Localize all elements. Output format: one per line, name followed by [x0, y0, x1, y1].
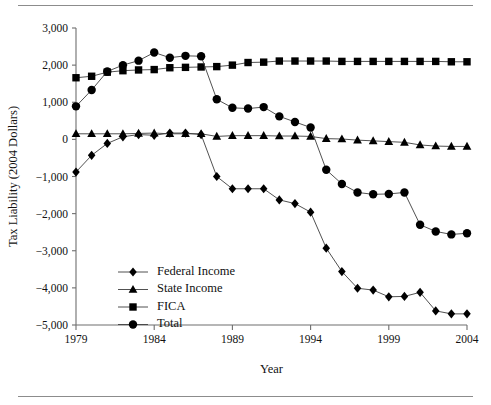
data-point-triangle — [338, 134, 347, 142]
data-point-circle — [259, 103, 267, 111]
data-point-square — [88, 73, 95, 80]
data-point-triangle — [87, 129, 96, 137]
y-tick-label: 0 — [62, 133, 68, 145]
data-point-circle — [291, 118, 299, 126]
data-point-circle — [134, 56, 142, 64]
data-point-diamond — [291, 199, 299, 208]
data-point-circle — [353, 188, 361, 196]
data-point-circle — [432, 227, 440, 235]
x-tick-label: 1979 — [65, 333, 88, 345]
legend-item-label: Federal Income — [157, 264, 236, 278]
data-point-diamond — [369, 286, 377, 295]
data-point-circle — [244, 104, 252, 112]
x-tick-label: 2004 — [456, 333, 479, 345]
data-point-square — [307, 57, 314, 64]
data-point-triangle — [384, 137, 393, 145]
data-point-circle — [275, 112, 283, 120]
data-point-triangle — [129, 285, 138, 293]
x-tick-label: 1984 — [143, 333, 166, 345]
data-point-circle — [447, 230, 455, 238]
data-point-triangle — [150, 128, 159, 136]
data-point-square — [291, 57, 298, 64]
data-point-circle — [197, 52, 205, 60]
data-point-square — [129, 303, 136, 310]
data-point-circle — [119, 61, 127, 69]
legend-item-federal-income[interactable]: Federal Income — [118, 264, 236, 278]
data-point-circle — [103, 67, 111, 75]
legend-item-fica[interactable]: FICA — [118, 299, 185, 313]
data-point-triangle — [447, 142, 456, 150]
data-point-triangle — [197, 129, 206, 137]
data-point-square — [338, 58, 345, 65]
data-point-circle — [306, 123, 314, 131]
data-point-square — [213, 63, 220, 70]
data-point-triangle — [369, 136, 378, 144]
tax-liability-line-chart: −5,000−4,000−3,000−2,000−1,00001,0002,00… — [0, 0, 491, 405]
data-point-circle — [87, 86, 95, 94]
data-point-triangle — [400, 138, 409, 146]
data-point-diamond — [260, 184, 268, 193]
data-point-square — [323, 57, 330, 64]
data-point-triangle — [275, 131, 284, 139]
x-tick-label: 1999 — [377, 333, 400, 345]
legend-item-label: Total — [157, 316, 183, 330]
data-point-square — [244, 59, 251, 66]
data-point-circle — [166, 54, 174, 62]
data-point-square — [166, 64, 173, 71]
data-point-triangle — [259, 131, 268, 139]
y-tick-label: −2,000 — [36, 208, 69, 221]
data-point-diamond — [213, 172, 221, 181]
x-tick-label: 1994 — [299, 333, 322, 345]
data-point-circle — [129, 320, 137, 328]
data-point-diamond — [229, 184, 237, 193]
data-point-circle — [213, 95, 221, 103]
y-axis-title: Tax Liability (2004 Dollars) — [6, 106, 20, 247]
data-point-square — [416, 58, 423, 65]
data-point-square — [448, 58, 455, 65]
y-tick-label: 1,000 — [42, 96, 68, 109]
legend-item-label: State Income — [157, 281, 223, 295]
data-point-diamond — [307, 208, 315, 217]
data-point-circle — [385, 190, 393, 198]
series-state-income — [72, 128, 472, 149]
data-point-square — [354, 58, 361, 65]
legend-item-total[interactable]: Total — [118, 316, 183, 330]
data-point-diamond — [104, 139, 112, 148]
data-point-triangle — [291, 131, 300, 139]
data-point-triangle — [463, 142, 472, 150]
figure-root: −5,000−4,000−3,000−2,000−1,00001,0002,00… — [0, 0, 491, 405]
chart-legend: Federal IncomeState IncomeFICATotal — [118, 264, 236, 331]
data-point-square — [135, 66, 142, 73]
data-point-triangle — [119, 129, 128, 137]
data-point-circle — [338, 180, 346, 188]
legend-item-state-income[interactable]: State Income — [118, 281, 223, 295]
data-point-circle — [400, 188, 408, 196]
data-point-diamond — [385, 292, 393, 301]
y-tick-label: −5,000 — [36, 319, 69, 332]
y-tick-label: −4,000 — [36, 282, 69, 295]
y-tick-label: 2,000 — [42, 59, 68, 72]
data-point-square — [432, 58, 439, 65]
data-point-square — [151, 66, 158, 73]
data-point-diamond — [276, 195, 284, 204]
x-axis-title: Year — [260, 362, 284, 376]
data-point-triangle — [72, 129, 81, 137]
series-line — [76, 53, 467, 235]
data-point-square — [385, 58, 392, 65]
data-point-circle — [72, 102, 80, 110]
data-point-square — [260, 58, 267, 65]
data-point-circle — [181, 52, 189, 60]
data-point-diamond — [129, 267, 137, 276]
data-point-triangle — [103, 129, 112, 137]
data-point-triangle — [134, 129, 143, 137]
data-point-diamond — [448, 309, 456, 318]
legend-item-label: FICA — [157, 299, 185, 313]
y-tick-label: 3,000 — [42, 22, 68, 35]
data-point-square — [401, 58, 408, 65]
data-point-circle — [150, 48, 158, 56]
data-point-square — [229, 61, 236, 68]
series-line — [76, 133, 467, 314]
data-point-square — [72, 74, 79, 81]
data-point-circle — [416, 221, 424, 229]
data-point-diamond — [401, 292, 409, 301]
